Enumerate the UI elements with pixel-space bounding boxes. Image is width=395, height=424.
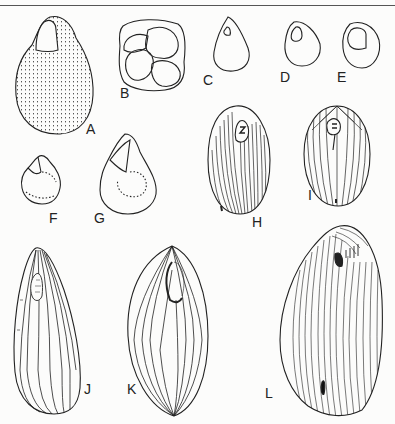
panel-label-j: J [84, 382, 91, 396]
specimen-f [21, 156, 60, 204]
specimen-i [304, 106, 370, 206]
panel-label-h: H [252, 215, 262, 229]
specimen-k [128, 246, 208, 416]
panel-label-g: G [94, 211, 105, 225]
panel-label-l: L [265, 386, 273, 400]
panel-label-e: E [337, 70, 346, 84]
specimen-a [16, 16, 93, 134]
panel-label-d: D [280, 70, 290, 84]
panel-label-k: K [127, 382, 136, 396]
specimen-h [208, 106, 270, 214]
specimen-g [100, 134, 156, 214]
specimen-d [285, 22, 320, 66]
panel-label-f: F [49, 211, 58, 225]
panel-label-c: C [203, 73, 213, 87]
figure-plate: A B C D E F G H I J K L [0, 0, 395, 424]
panel-label-b: B [120, 86, 129, 100]
specimen-e [343, 23, 380, 68]
specimen-l [280, 226, 382, 418]
illustrations [0, 0, 395, 424]
specimen-j [14, 248, 80, 414]
panel-label-a: A [86, 122, 95, 136]
specimen-c [214, 17, 250, 71]
panel-label-i: I [308, 188, 312, 202]
specimen-b [119, 20, 185, 91]
